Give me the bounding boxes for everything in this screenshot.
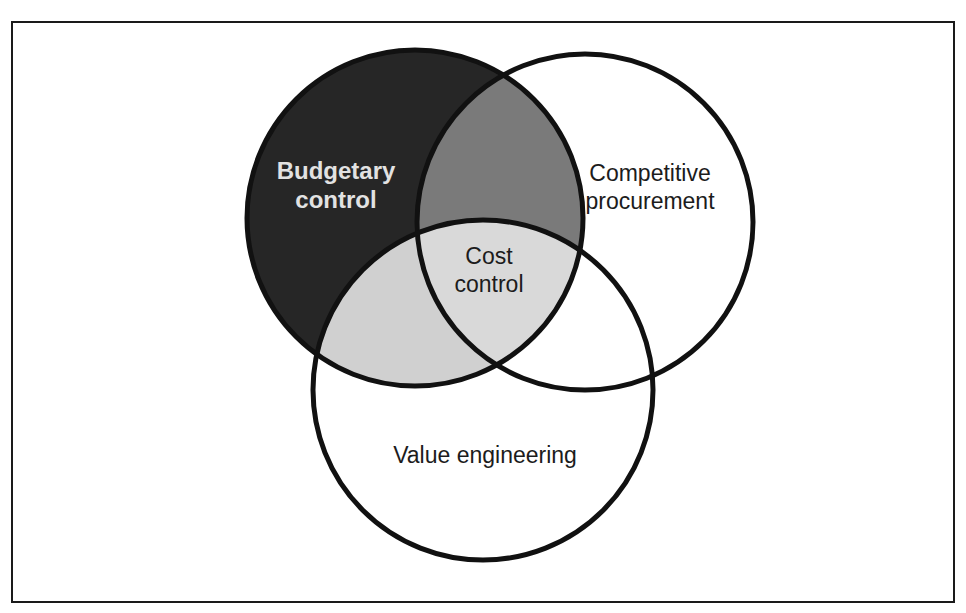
- competitive-label-line2: procurement: [585, 188, 714, 216]
- competitive-label-line1: Competitive: [585, 160, 714, 188]
- budgetary-control-label: Budgetary control: [277, 157, 396, 215]
- cost-label-line2: control: [454, 271, 523, 299]
- competitive-procurement-label: Competitive procurement: [585, 160, 714, 215]
- budgetary-label-line1: Budgetary: [277, 157, 396, 186]
- budgetary-label-line2: control: [277, 186, 396, 215]
- cost-control-label: Cost control: [454, 243, 523, 298]
- value-engineering-label: Value engineering: [393, 442, 577, 470]
- value-label-line1: Value engineering: [393, 442, 577, 470]
- cost-label-line1: Cost: [454, 243, 523, 271]
- venn-diagram: [0, 0, 966, 613]
